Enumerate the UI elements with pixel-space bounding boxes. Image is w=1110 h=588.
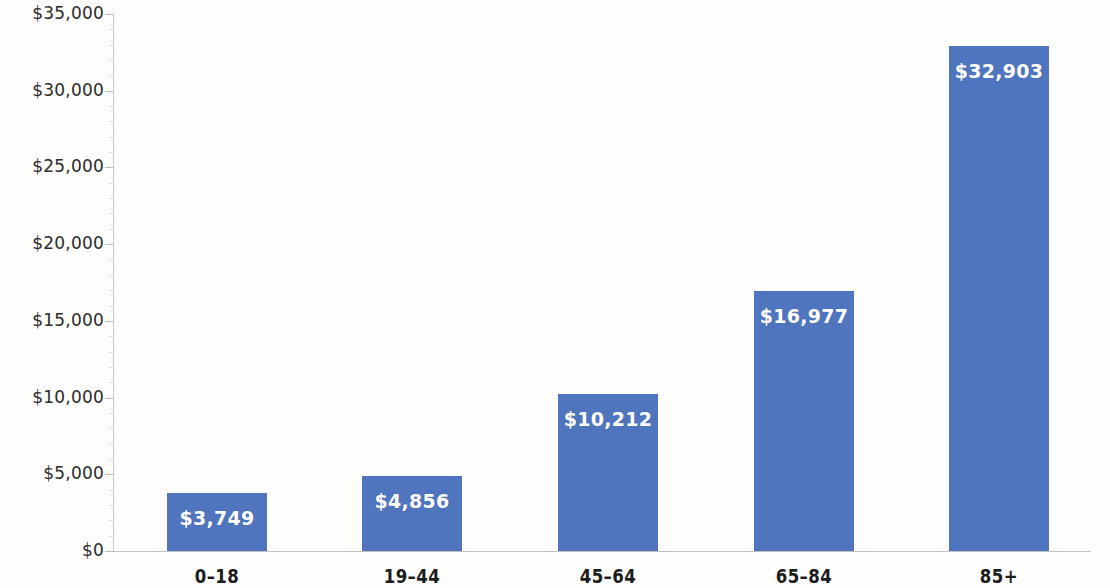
bar[interactable]: $10,212: [558, 394, 658, 551]
y-axis-minor-tick: [109, 490, 114, 491]
x-axis-category-label: 45–64: [534, 564, 681, 588]
y-axis-minor-tick: [109, 505, 114, 506]
y-axis-tick-label: $20,000: [0, 233, 104, 253]
y-axis-minor-tick: [109, 259, 114, 260]
y-axis-minor-tick: [109, 275, 114, 276]
y-axis-minor-tick: [109, 306, 114, 307]
bar-value-label: $32,903: [949, 60, 1049, 82]
y-axis-tick-mark: [105, 14, 114, 15]
y-axis-tick-label: $0: [0, 540, 104, 560]
x-axis-line: [113, 551, 1091, 552]
y-axis-minor-tick: [109, 152, 114, 153]
y-axis-tick-label: $10,000: [0, 387, 104, 407]
y-axis-line: [113, 14, 114, 552]
chart-page: $0$5,000$10,000$15,000$20,000$25,000$30,…: [0, 0, 1110, 588]
bar-value-label: $10,212: [558, 408, 658, 430]
y-axis-tick-mark: [105, 474, 114, 475]
y-axis-minor-tick: [109, 229, 114, 230]
y-axis-minor-tick: [109, 75, 114, 76]
bar[interactable]: $16,977: [754, 291, 854, 551]
y-axis-minor-tick: [109, 336, 114, 337]
y-axis-minor-tick: [109, 413, 114, 414]
y-axis-minor-tick: [109, 183, 114, 184]
y-axis-tick-label: $15,000: [0, 310, 104, 330]
y-axis-minor-tick: [109, 121, 114, 122]
bar-item[interactable]: $4,85619–44: [362, 476, 462, 551]
bar-item[interactable]: $32,90385+: [949, 46, 1049, 551]
y-axis-tick-mark: [105, 398, 114, 399]
y-axis-minor-tick: [109, 106, 114, 107]
y-axis-tick-mark: [105, 321, 114, 322]
y-axis-tick-mark: [105, 551, 114, 552]
y-axis-minor-tick: [109, 428, 114, 429]
y-axis-minor-tick: [109, 536, 114, 537]
y-axis-tick-label: $5,000: [0, 463, 104, 483]
y-axis-minor-tick: [109, 29, 114, 30]
y-axis-tick-mark: [105, 91, 114, 92]
bar-item[interactable]: $16,97765–84: [754, 291, 854, 551]
y-axis-minor-tick: [109, 137, 114, 138]
y-axis-minor-tick: [109, 444, 114, 445]
y-axis-minor-tick: [109, 382, 114, 383]
bar-chart: $0$5,000$10,000$15,000$20,000$25,000$30,…: [0, 0, 1110, 588]
bar[interactable]: $32,903: [949, 46, 1049, 551]
bar[interactable]: $3,749: [167, 493, 267, 551]
y-axis-tick-label: $25,000: [0, 156, 104, 176]
bar-value-label: $4,856: [362, 490, 462, 512]
x-axis-category-label: 0–18: [143, 564, 290, 588]
x-axis-category-label: 65–84: [730, 564, 877, 588]
x-axis-category-label: 85+: [925, 564, 1072, 588]
y-axis-tick-label: $30,000: [0, 80, 104, 100]
y-axis-tick-mark: [105, 167, 114, 168]
bar-value-label: $16,977: [754, 305, 854, 327]
y-axis-minor-tick: [109, 213, 114, 214]
y-axis-minor-tick: [109, 45, 114, 46]
y-axis-minor-tick: [109, 60, 114, 61]
y-axis-minor-tick: [109, 367, 114, 368]
y-axis-tick-mark: [105, 244, 114, 245]
y-axis-minor-tick: [109, 290, 114, 291]
bar-item[interactable]: $3,7490–18: [167, 493, 267, 551]
x-axis-category-label: 19–44: [338, 564, 485, 588]
y-axis-tick-label: $35,000: [0, 3, 104, 23]
y-axis-minor-tick: [109, 352, 114, 353]
bar[interactable]: $4,856: [362, 476, 462, 551]
y-axis-minor-tick: [109, 198, 114, 199]
bar-item[interactable]: $10,21245–64: [558, 394, 658, 551]
y-axis-minor-tick: [109, 520, 114, 521]
bar-value-label: $3,749: [167, 507, 267, 529]
y-axis-minor-tick: [109, 459, 114, 460]
